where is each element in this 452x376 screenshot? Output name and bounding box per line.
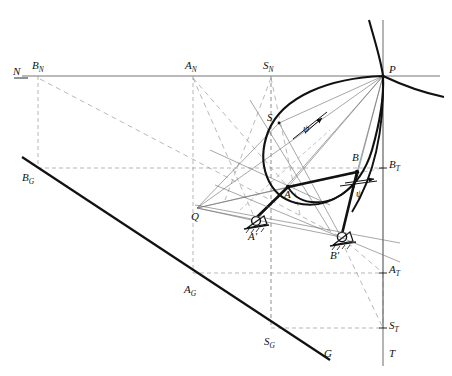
chord-S-Bp (279, 123, 341, 237)
joint-B-dot (355, 170, 359, 174)
label-S-G: SG (264, 336, 275, 350)
label-B: B (352, 152, 359, 163)
label-psi-upper: ψ (303, 123, 309, 134)
label-A-prime: A′ (248, 231, 257, 242)
pivot-connection-line (195, 205, 400, 243)
psi-upper-baseline (293, 112, 327, 139)
label-B-N: BN (32, 60, 44, 74)
point-S-dot (278, 122, 281, 125)
label-psi-lower: ψ (356, 188, 362, 199)
label-G: G (324, 348, 332, 359)
label-A-G: AG (184, 284, 196, 298)
curve-branch-upper (369, 20, 383, 76)
label-N: N (13, 66, 20, 77)
label-T: T (389, 348, 395, 359)
dashed-ray-Bp-ST (341, 240, 383, 328)
label-S-T: ST (389, 320, 399, 334)
label-S: S (267, 112, 273, 123)
label-Q: Q (191, 211, 199, 222)
figure-root: N BN AN SN P S BG B BT A Q A′ B′ AT AG S… (0, 0, 452, 376)
dashed-ray-AN-Ap (193, 78, 256, 221)
dashed-ray-AN-A (193, 78, 288, 187)
label-S-N: SN (263, 60, 274, 74)
dashed-ray-SN-S (225, 78, 271, 200)
angle-marker-psi-upper (293, 112, 327, 139)
diagram-canvas (0, 0, 452, 376)
pivot-secondary-line (215, 185, 400, 262)
label-B-T: BT (389, 159, 400, 173)
psi-lower-baseline (340, 181, 377, 186)
label-P: P (389, 64, 396, 75)
inner-arc-AB (288, 186, 352, 202)
label-A: A (284, 189, 291, 200)
curve-branch-right (383, 76, 444, 97)
label-A-T: AT (389, 264, 400, 278)
axis-station-ticks (14, 78, 387, 328)
chord-left-diag (210, 150, 330, 205)
label-B-prime: B′ (330, 250, 339, 261)
label-B-G: BG (22, 172, 34, 186)
point-P-dot (381, 74, 384, 77)
label-A-N: AN (185, 60, 197, 74)
